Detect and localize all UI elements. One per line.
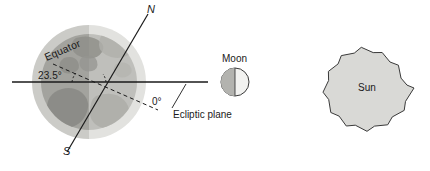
- sun-label: Sun: [358, 83, 376, 93]
- south-pole-label: S: [63, 146, 70, 157]
- moon-group: [221, 68, 249, 96]
- earth-group: [20, 14, 159, 152]
- ecliptic-plane-label: Ecliptic plane: [173, 110, 232, 120]
- moon-label: Moon: [222, 54, 247, 64]
- earth-moon-sun-diagram: Equator 23.5° 0° Ecliptic plane N S Moon…: [0, 0, 430, 171]
- axial-tilt-label: 23.5°: [38, 71, 62, 81]
- ecliptic-leader-line: [172, 84, 186, 108]
- ecliptic-angle-label: 0°: [152, 97, 162, 107]
- moon-shadow-half: [221, 68, 235, 96]
- north-pole-label: N: [147, 4, 155, 15]
- continent-central: [80, 56, 98, 72]
